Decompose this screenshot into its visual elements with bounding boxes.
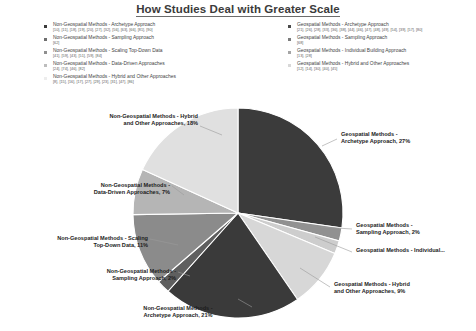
legend-item-geospatial-individual-building[interactable]: Geospatial Methods - Individual Building…	[288, 48, 476, 59]
pie-slice[interactable]	[238, 108, 343, 228]
data-label-line2: Archetype Approach, 27%	[341, 138, 471, 145]
data-label-geospatial-individual-building: Geospatial Methods - Individual...	[356, 247, 474, 254]
legend-swatch-icon	[288, 25, 291, 28]
data-label-line1: Geospatial Methods -	[341, 131, 471, 138]
data-label-line1: Non-Geospatial Methods - Hybrid	[42, 113, 198, 120]
legend-item-references: [8], [15], [16], [17], [27], [29], [23],…	[53, 80, 234, 85]
data-label-non-geospatial-hybrid-other: Non-Geospatial Methods - Hybrid and Othe…	[42, 113, 198, 127]
legend-item-non-geospatial-hybrid-other[interactable]: Non-Geospatial Methods - Hybrid and Othe…	[44, 74, 234, 85]
legend-swatch-icon	[44, 51, 47, 54]
legend-swatch-icon	[44, 25, 47, 28]
data-label-line2: and Other Approaches, 18%	[42, 120, 198, 127]
chart-legend: Non-Geospatial Methods - Archetype Appro…	[0, 22, 476, 98]
data-label-line2: Sampling Approach, 2%	[356, 229, 474, 236]
legend-item-geospatial-hybrid-other[interactable]: Geospatial Methods - Hybrid and Other Ap…	[288, 61, 476, 72]
data-label-line1: Geospatial Methods -	[356, 222, 474, 229]
data-label-line2: Data-Driven Approaches, 7%	[40, 189, 170, 196]
data-label-geospatial-hybrid-other: Geospatial Methods - Hybrid and Other Ap…	[334, 281, 474, 295]
legend-item-geospatial-archetype[interactable]: Geospatial Methods - Archetype Approach …	[288, 22, 476, 33]
pie-slice-group	[133, 108, 343, 318]
legend-item-references: [21], [26], [28], [33], [36], [38], [44]…	[297, 28, 476, 33]
data-label-line2: Sampling Approach, 2%	[56, 275, 176, 282]
legend-item-non-geospatial-data-driven[interactable]: Non-Geospatial Methods - Data-Driven App…	[44, 61, 234, 72]
chart-title-text: How Studies Deal with Greater Scale	[136, 3, 340, 17]
legend-item-references: [24], [74], [46], [82]	[53, 67, 234, 72]
legend-column-left: Non-Geospatial Methods - Archetype Appro…	[44, 22, 234, 87]
legend-item-non-geospatial-archetype[interactable]: Non-Geospatial Methods - Archetype Appro…	[44, 22, 234, 33]
legend-item-references: [41], [59], [43], [51], [59], [84]	[53, 54, 234, 59]
legend-item-non-geospatial-sampling[interactable]: Non-Geospatial Methods - Sampling Approa…	[44, 35, 234, 46]
data-label-line1: Non-Geospatial Methods -	[118, 305, 238, 312]
legend-swatch-icon	[44, 77, 47, 80]
legend-item-non-geospatial-scaling-top-down[interactable]: Non-Geospatial Methods - Scaling Top-Dow…	[44, 48, 234, 59]
data-label-geospatial-sampling: Geospatial Methods - Sampling Approach, …	[356, 222, 474, 236]
pie-slice[interactable]	[168, 213, 298, 318]
data-label-non-geospatial-archetype: Non-Geospatial Methods - Archetype Appro…	[118, 305, 238, 319]
pie-slice[interactable]	[238, 213, 335, 299]
data-label-line1: Geospatial Methods - Hybrid	[334, 281, 474, 288]
legend-item-references: [68]	[297, 41, 476, 46]
legend-swatch-icon	[288, 51, 291, 54]
data-label-geospatial-archetype: Geospatial Methods - Archetype Approach,…	[341, 131, 471, 145]
pie-slice[interactable]	[238, 213, 339, 254]
data-label-non-geospatial-sampling: Non-Geospatial Methods - Sampling Approa…	[56, 268, 176, 282]
chart-title: How Studies Deal with Greater Scale	[0, 3, 476, 15]
legend-swatch-icon	[288, 64, 291, 67]
legend-column-right: Geospatial Methods - Archetype Approach …	[288, 22, 476, 74]
legend-item-references: [12], [14], [30], [40], [45]	[297, 67, 476, 72]
data-label-non-geospatial-scaling-top-down: Non-Geospatial Methods - Scaling Top-Dow…	[8, 235, 148, 249]
data-label-line1: Non-Geospatial Methods - Scaling	[8, 235, 148, 242]
data-label-non-geospatial-data-driven: Non-Geospatial Methods - Data-Driven App…	[40, 182, 170, 196]
data-label-line1: Non-Geospatial Methods -	[56, 268, 176, 275]
data-label-line2: Archetype Approach, 21%	[118, 312, 238, 319]
leader-line-group	[150, 126, 352, 307]
legend-swatch-icon	[44, 38, 47, 41]
pie-slice[interactable]	[238, 213, 342, 241]
legend-item-references: [13], [28]	[297, 54, 476, 59]
data-label-line2: Top-Down Data, 11%	[8, 242, 148, 249]
data-label-line1: Geospatial Methods - Individual...	[356, 247, 474, 254]
data-label-line1: Non-Geospatial Methods -	[40, 182, 170, 189]
legend-item-references: [10], [11], [18], [19], [20], [27], [32]…	[53, 28, 234, 33]
legend-swatch-icon	[44, 64, 47, 67]
legend-item-references: [62]	[53, 41, 234, 46]
legend-item-geospatial-sampling[interactable]: Geospatial Methods - Sampling Approach […	[288, 35, 476, 46]
data-label-line2: and Other Approaches, 9%	[334, 288, 474, 295]
legend-swatch-icon	[288, 38, 291, 41]
